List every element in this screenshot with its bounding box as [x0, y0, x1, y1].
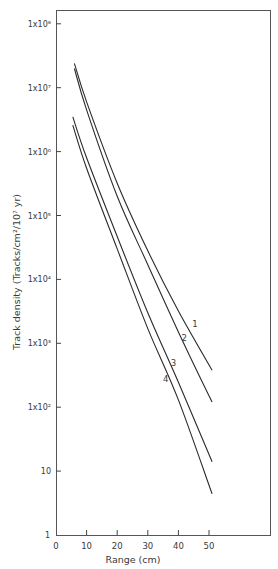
- y-tick-label: 1x10²: [28, 403, 51, 412]
- x-tick-label: 30: [142, 541, 153, 551]
- curves: [73, 63, 212, 494]
- y-tick-label: 10: [41, 467, 51, 476]
- curve-label-2: 2: [181, 333, 186, 343]
- curve-labels: 1234: [163, 319, 197, 384]
- curve-label-3: 3: [171, 358, 176, 368]
- y-tick-label: 1x10⁶: [28, 148, 51, 157]
- x-tick-label: 20: [112, 541, 123, 551]
- x-axis: 01020304050: [53, 530, 214, 551]
- y-tick-label: 1x10⁵: [28, 212, 51, 221]
- y-axis-label: Track density (Tracks/cm²/10⁷ yr): [11, 194, 22, 351]
- y-tick-label: 1x10⁸: [28, 20, 51, 29]
- y-tick-label: 1x10⁷: [28, 84, 51, 93]
- y-tick-label: 1x10³: [28, 339, 51, 348]
- curve-4: [73, 125, 212, 494]
- curve-3: [73, 117, 212, 462]
- plot-frame: [57, 11, 271, 536]
- curve-2: [74, 69, 212, 403]
- y-tick-label: 1x10⁴: [28, 275, 51, 284]
- curve-label-4: 4: [163, 374, 168, 384]
- curve-label-1: 1: [192, 319, 197, 329]
- x-tick-label: 10: [81, 541, 92, 551]
- track-density-chart: 1101x10²1x10³1x10⁴1x10⁵1x10⁶1x10⁷1x10⁸ 0…: [0, 0, 278, 569]
- x-axis-label: Range (cm): [105, 554, 160, 565]
- x-tick-label: 50: [204, 541, 215, 551]
- y-tick-label: 1: [45, 531, 50, 540]
- x-tick-label: 0: [53, 541, 58, 551]
- x-tick-label: 40: [173, 541, 184, 551]
